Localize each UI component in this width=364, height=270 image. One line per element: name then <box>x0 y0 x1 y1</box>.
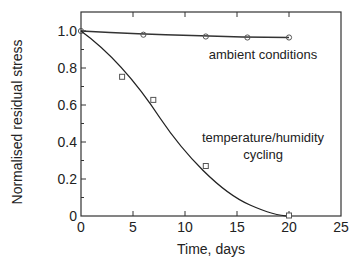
y-tick-0: 0 <box>69 208 77 224</box>
x-tick-25: 25 <box>333 219 349 235</box>
x-tick-labels: 0 5 10 15 20 25 <box>77 219 349 235</box>
x-tick-10: 10 <box>177 219 193 235</box>
annotation-cycling-line1: temperature/humidity <box>202 130 325 145</box>
y-tick-1.0: 1.0 <box>58 23 78 39</box>
x-axis-label: Time, days <box>177 241 245 257</box>
x-tick-20: 20 <box>281 219 297 235</box>
y-tick-labels: 0 0.2 0.4 0.6 0.8 1.0 <box>58 23 78 224</box>
y-tick-0.4: 0.4 <box>58 134 78 150</box>
annotation-ambient: ambient conditions <box>209 47 318 62</box>
x-tick-5: 5 <box>129 219 137 235</box>
y-tick-0.8: 0.8 <box>58 60 78 76</box>
y-tick-0.2: 0.2 <box>58 171 78 187</box>
annotation-cycling-line2: cycling <box>243 147 283 162</box>
y-ticks <box>81 31 86 198</box>
x-tick-15: 15 <box>229 219 245 235</box>
x-ticks <box>133 12 289 216</box>
x-tick-0: 0 <box>77 219 85 235</box>
plot-frame <box>81 12 341 216</box>
y-tick-0.6: 0.6 <box>58 97 78 113</box>
ambient-curve <box>81 31 289 38</box>
chart: 0 5 10 15 20 25 0 0.2 0.4 0.6 0.8 1.0 Ti… <box>0 0 364 270</box>
ambient-markers <box>78 28 291 40</box>
y-axis-label: Normalised residual stress <box>9 40 25 205</box>
